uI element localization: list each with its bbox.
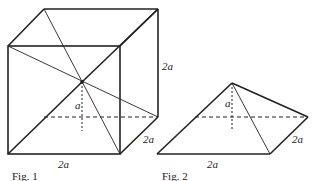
fig2-caption: Fig. 2 <box>162 170 188 181</box>
cube-edge-tl <box>8 9 44 46</box>
fig1-depth-label: 2a <box>143 133 155 145</box>
pyramid-lateral-fr <box>232 83 270 154</box>
fig1-inner-label: a <box>75 99 81 111</box>
pyramid-lateral-br <box>232 83 308 117</box>
fig1-height-label: 2a <box>162 60 174 72</box>
fig2-width-label: 2a <box>207 158 219 170</box>
fig1-width-label: 2a <box>58 158 70 170</box>
pyramid-lateral-fl <box>157 83 232 154</box>
cube-diagonal-3 <box>8 82 82 154</box>
fig1-cube <box>8 9 158 154</box>
fig2-height-label: a <box>225 97 231 109</box>
geometry-diagram: 2a 2a 2a a Fig. 1 a 2a 2a Fig. 2 <box>0 0 312 181</box>
fig2-pyramid <box>157 83 308 154</box>
fig1-caption: Fig. 1 <box>12 170 38 181</box>
cube-center-point <box>81 81 84 84</box>
fig2-depth-label: 2a <box>292 133 304 145</box>
